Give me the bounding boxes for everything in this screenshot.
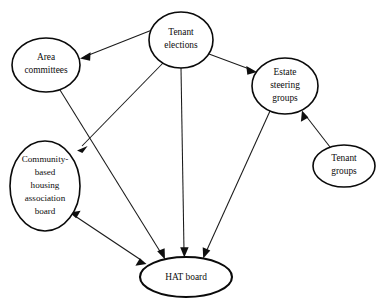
node-label-line: Tenant xyxy=(331,153,357,163)
node-community-based-housing-association-board[interactable]: Community- based housing association boa… xyxy=(10,141,80,231)
edge-tenant-elections-to-hat-board xyxy=(180,68,188,258)
edge-line xyxy=(209,54,252,70)
node-hat-board[interactable]: HAT board xyxy=(140,257,232,297)
edge-tenant-elections-to-area-committees xyxy=(80,30,152,61)
node-label-line: groups xyxy=(331,166,357,176)
edge-line xyxy=(181,68,184,251)
arrowhead-icon xyxy=(180,247,188,257)
edge-line xyxy=(82,63,163,146)
diagram-canvas: Tenant elections Area committees Estate … xyxy=(0,0,380,308)
node-label-line: Area xyxy=(37,52,56,62)
node-label-line: board xyxy=(35,206,56,216)
node-area-committees[interactable]: Area committees xyxy=(12,38,80,92)
arrowhead-icon xyxy=(135,258,146,266)
arrowhead-icon xyxy=(80,52,91,61)
organisation-flow-diagram: Tenant elections Area committees Estate … xyxy=(0,0,380,308)
edge-line xyxy=(306,116,330,147)
node-layer: Tenant elections Area committees Estate … xyxy=(10,12,375,297)
node-label-line: committees xyxy=(24,65,68,75)
node-label-line: HAT board xyxy=(165,272,207,282)
node-label-line: Tenant xyxy=(168,27,194,37)
node-label-line: association xyxy=(25,193,66,203)
arrowhead-icon xyxy=(157,248,165,259)
arrowhead-icon xyxy=(203,247,211,258)
node-label-line: Community- xyxy=(22,154,68,164)
edge-line xyxy=(85,30,152,57)
edge-tenant-elections-to-community-based-board xyxy=(77,63,163,153)
edge-tenant-elections-to-estate-steering-groups xyxy=(209,54,257,75)
node-label-line: elections xyxy=(164,40,198,50)
node-estate-steering-groups[interactable]: Estate steering groups xyxy=(252,58,318,114)
node-label-line: steering xyxy=(270,80,300,90)
edge-estate-steering-groups-to-hat-board xyxy=(203,111,270,259)
node-label-line: groups xyxy=(272,93,298,103)
node-tenant-elections[interactable]: Tenant elections xyxy=(149,12,213,68)
edge-line xyxy=(75,216,141,260)
edge-tenant-groups-to-estate-steering-groups xyxy=(301,111,330,148)
edge-community-based-board-and-hat-board xyxy=(70,211,147,266)
edge-line xyxy=(206,111,270,252)
arrowhead-icon xyxy=(301,111,309,122)
node-label-line: housing xyxy=(31,180,60,190)
node-label-line: based xyxy=(35,167,56,177)
node-tenant-groups[interactable]: Tenant groups xyxy=(313,145,375,187)
arrowhead-icon xyxy=(77,146,88,153)
node-label-line: Estate xyxy=(274,67,297,77)
